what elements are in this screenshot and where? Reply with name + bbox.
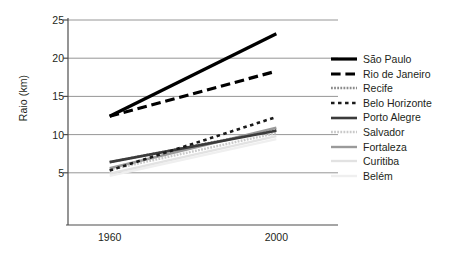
legend-label: São Paulo: [363, 54, 411, 65]
legend-item[interactable]: Belo Horizonte: [331, 96, 453, 111]
legend-swatch-icon: [331, 169, 357, 183]
legend-item[interactable]: Recife: [331, 81, 453, 96]
legend-item[interactable]: Fortaleza: [331, 140, 453, 155]
chart-container: Raio (km) 510152025 19602000 São PauloRi…: [0, 0, 456, 257]
legend-item[interactable]: São Paulo: [331, 52, 453, 67]
legend-swatch-icon: [331, 81, 357, 95]
chart-legend: São PauloRio de JaneiroRecifeBelo Horizo…: [331, 52, 453, 183]
series-line: [110, 136, 277, 173]
legend-label: Curitiba: [363, 156, 399, 167]
legend-swatch-icon: [331, 111, 357, 125]
series-line: [110, 71, 277, 116]
legend-item[interactable]: Salvador: [331, 125, 453, 140]
series-line: [110, 34, 277, 117]
legend-item[interactable]: Rio de Janeiro: [331, 67, 453, 82]
legend-swatch-icon: [331, 96, 357, 110]
legend-label: Porto Alegre: [363, 112, 421, 123]
legend-label: Fortaleza: [363, 142, 407, 153]
legend-swatch-icon: [331, 52, 357, 66]
legend-label: Belém: [363, 171, 393, 182]
legend-label: Rio de Janeiro: [363, 69, 431, 80]
legend-swatch-icon: [331, 67, 357, 81]
legend-label: Salvador: [363, 127, 404, 138]
legend-item[interactable]: Porto Alegre: [331, 110, 453, 125]
legend-label: Belo Horizonte: [363, 98, 432, 109]
legend-swatch-icon: [331, 154, 357, 168]
legend-swatch-icon: [331, 140, 357, 154]
legend-label: Recife: [363, 83, 393, 94]
legend-swatch-icon: [331, 125, 357, 139]
legend-item[interactable]: Curitiba: [331, 154, 453, 169]
legend-item[interactable]: Belém: [331, 169, 453, 184]
series-line: [110, 133, 277, 170]
